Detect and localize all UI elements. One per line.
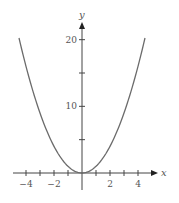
y-axis-label: y	[78, 9, 85, 20]
x-tick-label: 4	[135, 179, 141, 189]
x-tick-label: 2	[107, 179, 113, 189]
y-tick-label: 20	[66, 35, 78, 45]
parabola-chart: −4−224 x 1020 y	[0, 0, 179, 203]
x-tick-label: −2	[47, 179, 60, 189]
y-tick-label: 10	[66, 101, 78, 111]
x-tick-label: −4	[19, 179, 33, 189]
y-axis: 1020 y	[66, 9, 85, 190]
x-axis-arrow-icon	[151, 170, 158, 176]
chart-svg: −4−224 x 1020 y	[0, 0, 179, 203]
y-axis-arrow-icon	[79, 22, 85, 29]
x-axis-label: x	[161, 167, 167, 178]
